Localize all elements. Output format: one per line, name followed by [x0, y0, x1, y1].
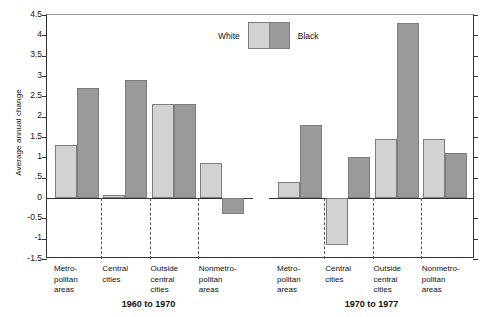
category-separator: [421, 198, 422, 259]
category-label: Metro- politan areas: [277, 264, 323, 296]
legend-swatch-black: [269, 23, 289, 48]
y-tick-mark: [42, 178, 47, 179]
y-tick-mark: [42, 259, 47, 260]
y-tick-mark: [42, 96, 47, 97]
y-tick-label: 0: [16, 193, 42, 202]
y-tick-label: -1.5: [16, 254, 42, 263]
legend: White Black: [218, 22, 319, 49]
y-tick-label: 2.5: [16, 91, 42, 100]
period-label-1970-1977: 1970 to 1977: [269, 299, 474, 309]
y-tick-mark-right: [473, 117, 478, 118]
y-tick-mark-right: [473, 239, 478, 240]
bar-white-1960-to-1970-cat2: [152, 104, 174, 198]
y-tick-label: -1: [16, 233, 42, 242]
category-separator: [150, 198, 151, 259]
y-tick-mark: [42, 56, 47, 57]
category-label: Outside central cities: [374, 264, 420, 296]
y-tick-mark-right: [473, 218, 478, 219]
category-separator: [373, 198, 374, 259]
y-tick-mark: [42, 76, 47, 77]
y-tick-label: 1.5: [16, 132, 42, 141]
bars-layer: [47, 15, 473, 257]
y-tick-mark-right: [473, 157, 478, 158]
category-label: Nonmetro- politan areas: [422, 264, 468, 296]
y-tick-mark-right: [473, 35, 478, 36]
bar-white-1970-to-1977-cat0: [278, 182, 300, 198]
y-tick-label: 3: [16, 71, 42, 80]
y-tick-mark: [42, 137, 47, 138]
category-separator: [101, 198, 102, 259]
category-label: Metro- politan areas: [54, 264, 100, 296]
y-tick-mark-right: [473, 137, 478, 138]
bar-white-1960-to-1970-cat3: [200, 163, 222, 198]
bar-white-1960-to-1970-cat0: [55, 145, 77, 198]
bar-white-1970-to-1977-cat3: [423, 139, 445, 198]
bar-black-1960-to-1970-cat3: [222, 198, 244, 214]
y-tick-mark-right: [473, 15, 478, 16]
y-tick-label: 2: [16, 111, 42, 120]
y-tick-mark: [42, 218, 47, 219]
legend-swatch: [248, 22, 290, 49]
y-tick-label: -0.5: [16, 213, 42, 222]
y-tick-label: .5: [16, 172, 42, 181]
category-label: Outside central cities: [151, 264, 197, 296]
bar-white-1970-to-1977-cat2: [375, 139, 397, 198]
bar-black-1960-to-1970-cat2: [174, 104, 196, 198]
y-tick-mark: [42, 117, 47, 118]
bar-black-1960-to-1970-cat0: [77, 88, 99, 198]
category-label: Nonmetro- politan areas: [199, 264, 245, 296]
y-tick-mark-right: [473, 259, 478, 260]
legend-label-white: White: [218, 31, 240, 41]
category-labels: Metro- politan areasCentral citiesOutsid…: [46, 264, 474, 298]
bar-black-1960-to-1970-cat1: [125, 80, 147, 198]
bar-black-1970-to-1977-cat0: [300, 125, 322, 198]
y-tick-mark-right: [473, 96, 478, 97]
y-tick-mark-right: [473, 76, 478, 77]
legend-label-black: Black: [298, 31, 319, 41]
y-tick-mark: [42, 157, 47, 158]
bar-black-1970-to-1977-cat3: [445, 153, 467, 198]
y-tick-label: 4.5: [16, 10, 42, 19]
y-tick-mark-right: [473, 178, 478, 179]
bar-white-1970-to-1977-cat1: [326, 198, 348, 245]
plot-area: [46, 14, 474, 258]
bar-black-1970-to-1977-cat2: [397, 23, 419, 198]
y-tick-label: 1: [16, 152, 42, 161]
y-tick-mark: [42, 35, 47, 36]
panel-gap: [253, 197, 269, 200]
period-label-1960-1970: 1960 to 1970: [46, 299, 251, 309]
bar-chart: Average annual change 4.543.532.521.51.5…: [0, 0, 484, 317]
category-separator: [198, 198, 199, 259]
y-axis-tick-labels: 4.543.532.521.51.50-0.5-1-1.5: [12, 0, 42, 317]
category-label: Central cities: [102, 264, 148, 285]
y-tick-mark: [42, 15, 47, 16]
bar-black-1970-to-1977-cat1: [348, 157, 370, 198]
bar-white-1960-to-1970-cat1: [103, 195, 125, 198]
y-tick-mark-right: [473, 56, 478, 57]
legend-swatch-white: [249, 23, 269, 48]
y-tick-mark: [42, 239, 47, 240]
y-tick-label: 4: [16, 30, 42, 39]
y-tick-label: 3.5: [16, 50, 42, 59]
category-separator: [324, 198, 325, 259]
category-label: Central cities: [325, 264, 371, 285]
